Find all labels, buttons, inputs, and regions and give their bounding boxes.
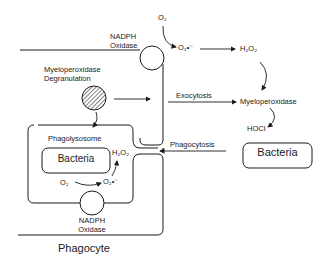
nadph-oxidase-bottom-icon xyxy=(80,191,104,215)
phagocytosis-label: Phagocytosis xyxy=(170,140,215,149)
mpo-degranulation-label-line1: Myeloperoxidase xyxy=(44,65,101,74)
o2-inside-label: O₂ xyxy=(60,178,69,187)
phagolysosome-label: Phagolysosome xyxy=(48,134,101,143)
arrow-o2-to-superoxide xyxy=(163,26,176,47)
mpo-degranulation-label-line2: Degranulation xyxy=(44,74,91,83)
arrow-mpo-to-hocl xyxy=(268,108,275,127)
nadph-top-label-line2: Oxidase xyxy=(110,41,138,50)
exocytosis-label: Exocytosis xyxy=(176,91,212,100)
phagocyte-label: Phagocyte xyxy=(58,244,110,253)
nadph-bottom-label-line1: NADPH xyxy=(72,216,112,225)
nadph-oxidase-top-icon xyxy=(140,46,164,70)
myeloperoxidase-label: Myeloperoxidase xyxy=(240,97,297,106)
myeloperoxidase-granule-icon xyxy=(82,86,106,110)
cell-membrane-right-upper xyxy=(140,64,163,145)
arrow-h2o2-to-mpo xyxy=(260,62,267,90)
hocl-label: HOCl xyxy=(247,124,265,133)
h2o2-inside-label: H₂O₂ xyxy=(112,148,129,157)
nadph-top-label-line1: NADPH xyxy=(110,32,136,41)
o2-top-label: O₂ xyxy=(158,13,167,22)
bacteria-outside-label: Bacteria xyxy=(243,148,312,157)
superoxide-inside-label: O₂•⁻ xyxy=(103,177,118,186)
nadph-bottom-label-line2: Oxidase xyxy=(72,225,112,234)
arrow-o2-to-superoxide-inside xyxy=(75,182,101,185)
bacteria-inside-label: Bacteria xyxy=(42,154,110,163)
h2o2-top-label: H₂O₂ xyxy=(240,44,257,53)
arrow-superoxide-to-h2o2-inside xyxy=(112,161,117,176)
superoxide-top-label: O₂•⁻ xyxy=(178,43,193,52)
diagram-canvas xyxy=(0,0,328,264)
